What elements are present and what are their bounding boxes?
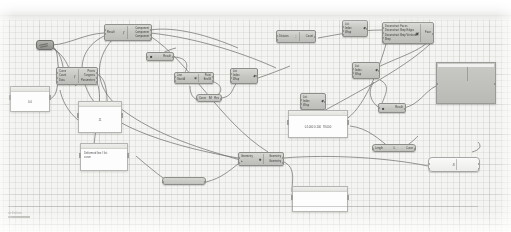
panel-a-output[interactable] [49,95,51,100]
division-component[interactable]: Division ÷ Count [276,30,316,43]
line-component[interactable]: Line Start A ✶ Point End B [174,72,214,84]
result-output-0: Result [162,55,172,58]
division-input-0: Division [278,35,289,38]
decon-input-3: Brep [384,38,392,41]
panel-b-input[interactable] [77,113,79,118]
panel-d-input[interactable] [291,195,293,200]
expression-output-2: Component [134,35,150,38]
transform-component[interactable]: S [428,157,480,172]
block-sheen [438,64,494,67]
panel-c-output[interactable] [127,153,129,158]
line-input-1: Start A [176,78,186,81]
status-label: definition [8,211,22,215]
divide-output-1: Geometry [268,160,282,163]
scale-right-label: Count [394,145,401,148]
line-glyph: ✶ [191,73,198,83]
list-item-component-b[interactable]: List Index Wrap ◆ [342,20,368,37]
panel-c-body[interactable]: Deformed line / list curve [81,149,127,170]
divide-input-0: Geometry [240,155,254,158]
panel-d-body[interactable] [293,192,347,211]
toolbar-ribbon[interactable] [0,0,511,16]
result-b-output-0: Result [394,106,404,109]
list-c-input-1: Index [302,100,311,103]
result-component-b[interactable]: ■ Result [378,103,406,113]
merge-glyph: M [209,96,212,100]
panel-e-input[interactable] [287,120,289,125]
evaluate-output-1: Tangents [83,74,96,77]
grasshopper-window[interactable]: Result ƒ Component Component Component C… [0,0,511,232]
panel-d-output[interactable] [347,195,349,200]
panel-e-body[interactable]: 0.1000 0.100 78.000 [289,116,347,137]
expression-output-0: Component [134,27,150,30]
panel-b-body[interactable]: 11 [79,107,121,132]
geometry-preview-block[interactable] [436,62,496,104]
deconstruct-brep-component[interactable]: Deconstruct Faces Deconstruct Brep Edges… [382,22,434,44]
evaluate-input-1: Count [58,74,67,77]
expression-input-0: Result [106,31,116,34]
list-d-input-1: Index [354,69,363,72]
list-d-input-0: List [354,65,360,68]
list-b-input-2: Wrap [344,31,352,34]
panel-e-output[interactable] [347,120,349,125]
list-item-component-d[interactable]: List Index Wrap ◆ [352,62,380,79]
line-output-1: End B [203,78,212,81]
panel-b-output[interactable] [121,113,123,118]
decon-output-0: Face [424,31,432,34]
divide-output-0: Geometry [268,155,282,158]
panel-a-body[interactable]: 0.0 [11,92,49,111]
merge-output-label: Res [214,97,219,100]
panel-value-a[interactable]: ... 0.0 [10,86,50,112]
list-c-input-2: Wrap [302,104,310,107]
length-component[interactable] [162,177,206,185]
number-slider-knob[interactable] [36,40,54,50]
result-component[interactable]: ■ Result [146,52,174,61]
block-seam [467,67,468,81]
cluster-right-label: Curve [406,147,413,150]
toolbar-shadow [0,15,511,20]
result-b-glyph: ■ [379,104,386,112]
result-glyph: ■ [147,53,154,60]
bottom-rule [8,206,478,207]
decon-glyph: ▣ [413,23,420,43]
list-b-input-1: Index [344,27,353,30]
panel-c-input[interactable] [79,153,81,158]
evaluate-output-0: Points [86,70,96,73]
decon-input-2: Deconstruct Brep Vertices [384,34,417,37]
list-d-input-2: Wrap [354,73,362,76]
panel-value-e[interactable]: ... 0.1000 0.100 78.000 [288,110,348,138]
evaluate-output-2: Parameters [80,79,96,82]
expression-component[interactable]: Result ƒ Component Component Component [104,24,152,41]
decon-input-1: Deconstruct Brep Edges [384,29,415,32]
list-c-input-0: List [302,96,308,99]
list-item-component[interactable]: List Index Wrap ◆ [230,68,258,84]
divide-curve-component[interactable]: Geometry ● ● Geometry Geometry [238,152,284,166]
divide-input-1: ● [240,160,244,163]
expression-output-1: Component [134,31,150,34]
panel-list-d[interactable] [292,186,348,212]
status-bar [8,216,30,218]
list-a-input-2: Wrap [232,78,240,81]
merge-input-label: Curve [199,97,206,100]
merge-component[interactable]: Curve M Res [196,94,222,102]
panel-value-b[interactable]: ... 11 [78,101,122,133]
division-output-0: Count [305,35,314,38]
panel-text-c[interactable]: ... Deformed line / list curve [80,143,128,171]
status-text: definition [8,211,30,218]
evaluate-input-2: Data [58,79,66,82]
panel-a-input[interactable] [9,95,11,100]
evaluate-input-0: Curve [58,70,67,73]
list-item-component-c[interactable]: List Index Wrap ◆ [300,93,326,110]
scale-left-label: Curve [385,145,392,148]
evaluate-component[interactable]: Curve Count Data ƒ Points Tangents Param… [56,67,98,85]
decon-input-0: Deconstruct Faces [384,25,408,28]
list-b-input-0: List [344,23,350,26]
